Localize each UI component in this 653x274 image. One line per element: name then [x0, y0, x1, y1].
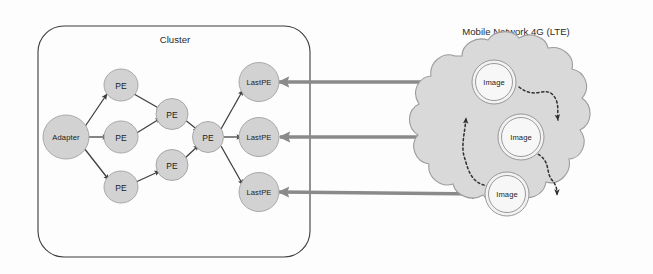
node-image-2[interactable]: Image	[498, 114, 544, 160]
node-adapter[interactable]: Adapter	[43, 115, 89, 159]
node-lastpe-1[interactable]: LastPE	[239, 63, 279, 102]
node-pe-4[interactable]: PE	[156, 99, 188, 130]
node-image-3[interactable]: Image	[485, 172, 529, 216]
node-image-3-label: Image	[496, 190, 518, 199]
node-lastpe-1-label: LastPE	[246, 78, 271, 87]
node-pe-2[interactable]: PE	[104, 121, 138, 153]
node-pe-1-label: PE	[115, 81, 127, 91]
node-lastpe-3[interactable]: LastPE	[239, 173, 279, 212]
node-image-1-label: Image	[483, 78, 505, 87]
node-pe-2-label: PE	[115, 133, 127, 143]
node-pe-4-label: PE	[166, 110, 178, 120]
node-pe-3-label: PE	[115, 183, 127, 193]
node-lastpe-3-label: LastPE	[246, 188, 271, 197]
diagram-svg: Cluster	[0, 0, 653, 274]
diagram-canvas: Cluster	[0, 0, 653, 274]
node-pe-merge[interactable]: PE	[193, 122, 224, 153]
node-pe-merge-label: PE	[202, 133, 214, 143]
node-lastpe-2-label: LastPE	[246, 133, 271, 142]
node-adapter-label: Adapter	[52, 133, 80, 142]
node-pe-3[interactable]: PE	[104, 171, 138, 203]
node-pe-5-label: PE	[166, 161, 178, 171]
node-pe-5[interactable]: PE	[156, 150, 188, 181]
bidirectional-link-bottom	[279, 192, 482, 194]
node-pe-1[interactable]: PE	[104, 69, 138, 101]
cluster-title: Cluster	[160, 34, 191, 45]
node-image-1[interactable]: Image	[472, 60, 516, 104]
node-image-2-label: Image	[510, 133, 532, 142]
node-lastpe-2[interactable]: LastPE	[239, 118, 279, 157]
